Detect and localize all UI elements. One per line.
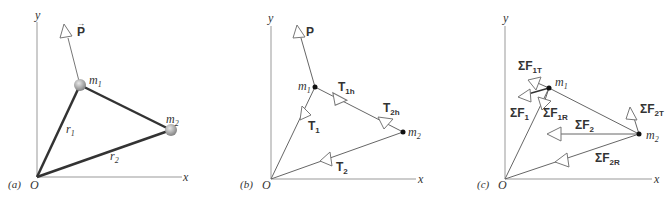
mass-1-dot: [313, 85, 318, 90]
mass-1-dot: [547, 86, 552, 91]
mass-2-label: m2: [646, 128, 659, 144]
mass-2-label: m2: [408, 125, 421, 141]
y-axis-label: y: [267, 11, 274, 25]
vector-arrow-icon: →: [77, 19, 85, 28]
rod-line: [80, 85, 171, 130]
panel-b: y x (b) O P m1 m2 T1 T1h T2h T2: [240, 11, 424, 192]
rod-line: [549, 88, 639, 134]
origin-label: O: [498, 178, 507, 192]
force-p-arrowhead-icon: [60, 24, 72, 38]
f2t-label: ΣF2T: [640, 102, 664, 118]
mass-1-label: m1: [298, 79, 311, 95]
mass-1-label: m1: [555, 75, 568, 91]
x-axis-label: x: [182, 170, 189, 184]
t1-arrowhead-icon: [300, 106, 311, 120]
x-axis-label: x: [417, 172, 424, 186]
r2-label: r2: [110, 149, 119, 165]
y-axis-label: y: [34, 8, 41, 22]
r2-line: [505, 134, 639, 179]
f2-arrowhead-icon: [547, 127, 561, 141]
f2t-arrowhead-icon: [626, 107, 637, 120]
mass-2-dot: [401, 130, 406, 135]
t1-label: T1: [308, 119, 320, 135]
y-axis-label: y: [502, 11, 509, 25]
f1-line: [528, 88, 549, 94]
f2r-arrowhead-icon: [555, 153, 569, 167]
panel-a: y x (a) O P → m1 m2 r1 r2: [8, 8, 189, 192]
panel-c: y x (c) O m1 m2 ΣF1T ΣF1 ΣF1R ΣF2 ΣF2T Σ…: [477, 11, 664, 192]
f1-label: ΣF1: [510, 106, 530, 122]
mass-2-label: m2: [166, 112, 179, 128]
force-p-line: [68, 38, 80, 85]
panel-label: (b): [240, 178, 253, 191]
mass-1-label: m1: [89, 73, 102, 89]
t2-arrowhead-icon: [320, 152, 332, 166]
panel-label: (a): [8, 178, 21, 191]
t2h-arrowhead-icon: [378, 117, 393, 129]
origin-label: O: [30, 178, 39, 192]
t1h-label: T1h: [338, 80, 355, 96]
x-axis-label: x: [653, 172, 660, 186]
f1-arrowhead-icon: [518, 89, 531, 102]
mass-1-ball: [74, 79, 86, 91]
f1r-label: ΣF1R: [543, 106, 568, 122]
f2-label: ΣF2: [575, 118, 595, 134]
origin-label: O: [262, 178, 271, 192]
t2-label: T2: [336, 160, 348, 176]
force-p-label: P: [306, 25, 314, 39]
r1-label: r1: [66, 122, 75, 138]
force-p-arrowhead-icon: [293, 25, 305, 38]
t2h-label: T2h: [383, 101, 400, 117]
f2r-label: ΣF2R: [595, 151, 620, 167]
panel-label: (c): [477, 178, 490, 191]
r2-line: [37, 130, 171, 177]
mass-2-dot: [637, 132, 642, 137]
f1t-label: ΣF1T: [518, 59, 542, 75]
